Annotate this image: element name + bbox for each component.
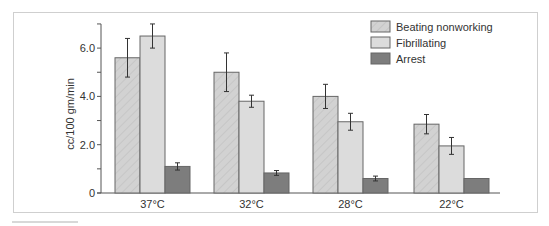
bar-fibrillating-2 — [338, 122, 363, 193]
legend-label: Beating nonworking — [396, 21, 493, 33]
bar-chart: 02.04.06.0cc/100 gm/min 37°C32°C28°C22°C… — [0, 0, 549, 226]
x-tick-label: 32°C — [239, 198, 264, 210]
y-axis-label: cc/100 gm/min — [64, 78, 76, 150]
y-tick-label: 4.0 — [80, 90, 95, 102]
x-tick-label: 37°C — [140, 198, 165, 210]
y-tick-label: 6.0 — [80, 42, 95, 54]
legend-label: Fibrillating — [396, 37, 446, 49]
x-tick-label: 28°C — [338, 198, 363, 210]
bar-beating-nonworking-3 — [414, 124, 439, 193]
legend-swatch — [371, 53, 390, 64]
bar-beating-nonworking-0 — [115, 58, 140, 193]
x-tick-label: 22°C — [439, 198, 464, 210]
bars: 37°C32°C28°C22°C — [115, 24, 489, 210]
legend-swatch — [371, 21, 390, 32]
legend-swatch — [371, 37, 390, 48]
y-tick-label: 2.0 — [80, 139, 95, 151]
bar-arrest-3 — [464, 179, 489, 193]
y-tick-label: 0 — [89, 187, 95, 199]
legend-label: Arrest — [396, 53, 425, 65]
bar-arrest-1 — [264, 173, 289, 193]
bar-fibrillating-0 — [140, 36, 165, 193]
bar-fibrillating-1 — [239, 101, 264, 193]
legend: Beating nonworkingFibrillatingArrest — [371, 21, 493, 65]
bar-beating-nonworking-2 — [313, 96, 338, 193]
